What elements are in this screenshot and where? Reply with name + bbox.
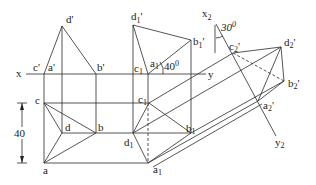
aux-c2d2	[233, 47, 281, 53]
label-a-prime: a'	[48, 61, 55, 73]
label-b-prime: b'	[97, 61, 105, 73]
label-y2: y2	[275, 136, 285, 150]
label-c: c	[35, 94, 40, 106]
label-b2-prime: b2'	[288, 77, 300, 91]
label-d1-prime: d1'	[131, 10, 143, 25]
label-c1-prime: c1	[134, 62, 143, 76]
arrow-up-icon	[20, 103, 24, 110]
label-b1-prime: b1'	[193, 35, 205, 50]
label-a1: a1	[153, 163, 162, 177]
label-d-prime: d'	[66, 13, 74, 25]
label-c1: c1	[138, 93, 147, 107]
label-d2-prime: d2'	[284, 36, 296, 50]
projector-a2	[148, 101, 258, 163]
label-a1-prime: a1	[150, 57, 159, 71]
diagram-svg: x y 40 d' c' a' b' c d b a 400 d1' c1 a1…	[0, 0, 316, 185]
top-view-ab	[44, 133, 96, 163]
arrow-down-icon	[20, 156, 24, 163]
label-b: b	[98, 121, 104, 133]
label-b1: b1	[186, 122, 196, 136]
angle-30-arc	[216, 36, 223, 38]
projector-d2	[133, 47, 281, 133]
label-c2-prime: c2'	[229, 40, 240, 54]
label-d: d	[65, 121, 71, 133]
dimension-40-label: 40	[14, 127, 26, 139]
label-c-prime: c'	[33, 61, 40, 73]
angle-30-label: 300	[220, 20, 236, 33]
label-a2-prime: a2'	[263, 99, 274, 113]
y-label: y	[208, 68, 214, 80]
projection-diagram: x y 40 d' c' a' b' c d b a 400 d1' c1 a1…	[0, 0, 316, 185]
label-x2: x2	[202, 7, 212, 22]
x-label: x	[16, 67, 22, 79]
aux-d2b2	[281, 47, 284, 81]
projector-a2-second	[153, 104, 262, 167]
label-a: a	[43, 164, 48, 176]
aux-d2a2	[258, 47, 281, 101]
angle-40-label: 400	[164, 59, 179, 72]
label-d1: d1	[124, 136, 134, 150]
